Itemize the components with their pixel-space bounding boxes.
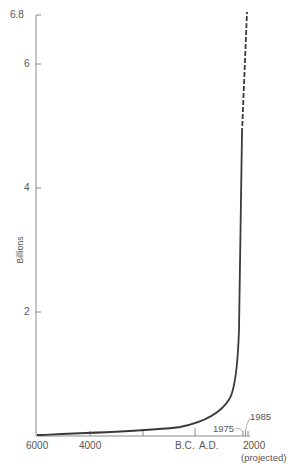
population-curve-actual	[37, 133, 242, 435]
x-tick-label-projected: (projected)	[241, 453, 286, 463]
x-tick-label-2000: 2000	[243, 441, 265, 451]
population-growth-chart: 6.8 6 4 2 Billions 6000 4000 B.C. A.D. 1…	[0, 0, 298, 468]
x-tick-label-bc: B.C.	[175, 441, 194, 451]
x-tick-label-ad: A.D.	[199, 441, 218, 451]
y-tick-label-4: 4	[24, 183, 30, 193]
leader-1975	[236, 428, 243, 432]
y-axis-title: Billions	[15, 230, 25, 270]
y-tick-label-6: 6	[24, 59, 30, 69]
x-tick-label-6000: 6000	[26, 441, 48, 451]
x-tick-label-1975: 1975	[213, 424, 234, 434]
chart-canvas	[0, 0, 298, 468]
population-curve-projected	[242, 12, 247, 133]
x-tick-label-4000: 4000	[79, 441, 101, 451]
x-tick-label-1985: 1985	[250, 412, 271, 422]
y-tick-label-2: 2	[24, 307, 30, 317]
y-tick-label-6.8: 6.8	[10, 10, 24, 20]
